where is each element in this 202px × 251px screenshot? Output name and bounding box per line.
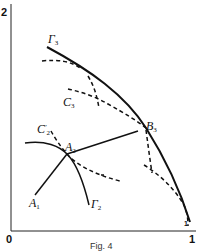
c2prime-dashed-curve — [51, 131, 120, 181]
origin-label: 0 — [6, 234, 12, 245]
gamma3-label: Γ3 — [48, 33, 58, 47]
a1-line — [35, 154, 67, 195]
b3-label: B3 — [146, 120, 157, 134]
x-axis-end-label: 1 — [189, 234, 195, 245]
c3-label: C3 — [63, 96, 75, 110]
c3-dashed-curve — [68, 89, 146, 128]
a2-label: A2 — [65, 141, 76, 155]
small-one-label: 1 — [184, 220, 188, 227]
gamma3-curve — [47, 47, 190, 222]
descending-dashed-curve — [88, 76, 99, 108]
c2prime-label: C′2 — [37, 123, 50, 137]
figure-caption: Fig. 4 — [90, 242, 113, 251]
y-axis-top-label: 2 — [1, 7, 7, 18]
gamma2-label: Γ2 — [91, 198, 101, 212]
a1-label: A1 — [29, 197, 40, 211]
a2-b3-line — [67, 131, 138, 154]
